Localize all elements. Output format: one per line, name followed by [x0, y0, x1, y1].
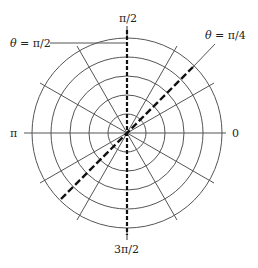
theta-pi-over-4-leader-line [193, 44, 215, 67]
polar-coordinate-diagram: π/2 3π/2 π 0 θ = π/2 θ = π/4 [0, 0, 258, 268]
annotation-value: π/2 [33, 37, 51, 50]
label-top-pi-over-2: π/2 [119, 12, 137, 25]
annotation-theta-pi-over-2: θ = π/2 [10, 37, 51, 50]
equals-sign: = [212, 29, 228, 42]
label-left-pi: π [10, 127, 17, 140]
annotation-theta-pi-over-4: θ = π/4 [205, 29, 246, 42]
label-right-zero: 0 [232, 127, 239, 140]
label-bottom-3pi-over-2: 3π/2 [114, 243, 139, 256]
annotation-value: π/4 [228, 29, 246, 42]
equals-sign: = [17, 37, 33, 50]
